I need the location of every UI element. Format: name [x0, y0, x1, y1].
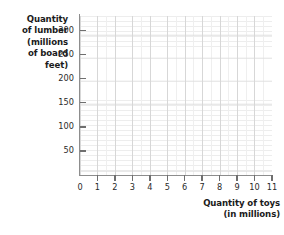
- x-tick-mark: [236, 175, 237, 181]
- x-axis-title-line-1: Quantity of toys: [150, 198, 280, 209]
- x-axis-title: Quantity of toys (in millions): [150, 198, 280, 221]
- y-axis-title-line-1: Quantity: [2, 14, 68, 25]
- x-tick-mark: [254, 175, 255, 181]
- y-tick-mark: [80, 150, 86, 151]
- y-tick-label: 300: [46, 25, 74, 35]
- y-tick-label-text: 150: [48, 97, 74, 107]
- x-tick-mark: [149, 175, 150, 181]
- x-tick-mark: [271, 175, 272, 181]
- y-tick-label: 50: [46, 145, 74, 155]
- x-tick-mark: [167, 175, 168, 181]
- chart-figure: Quantity of lumber (millions of board fe…: [0, 0, 284, 235]
- x-tick-mark: [114, 175, 115, 181]
- y-tick-label-text: 50: [48, 145, 74, 155]
- y-tick-mark: [80, 30, 86, 31]
- plot-area: [80, 16, 272, 175]
- y-tick-label: 250: [46, 49, 74, 59]
- x-tick-label: 11: [262, 182, 282, 192]
- y-tick-label: 100: [46, 121, 74, 131]
- x-tick-mark: [201, 175, 202, 181]
- y-axis-title-line-3: (millions: [2, 37, 68, 48]
- y-axis-title: Quantity of lumber (millions of board fe…: [2, 14, 68, 71]
- x-axis-title-line-2: (in millions): [150, 209, 280, 220]
- y-tick-label: 200: [46, 73, 74, 83]
- y-tick-label-text: 300: [48, 25, 74, 35]
- y-tick-label-text: 250: [48, 49, 74, 59]
- y-tick-mark: [80, 54, 86, 55]
- x-tick-mark: [132, 175, 133, 181]
- data-series-layer: [80, 16, 272, 175]
- x-tick-mark: [219, 175, 220, 181]
- y-tick-mark: [80, 102, 86, 103]
- y-tick-mark: [80, 126, 86, 127]
- y-tick-label-text: 200: [48, 73, 74, 83]
- x-axis-line: [79, 175, 273, 176]
- y-axis-line: [79, 14, 80, 176]
- y-tick-label-text: 100: [48, 121, 74, 131]
- y-tick-mark: [80, 78, 86, 79]
- y-axis-title-line-5: feet): [2, 60, 68, 71]
- x-tick-mark: [97, 175, 98, 181]
- y-tick-label: 150: [46, 97, 74, 107]
- x-tick-mark: [184, 175, 185, 181]
